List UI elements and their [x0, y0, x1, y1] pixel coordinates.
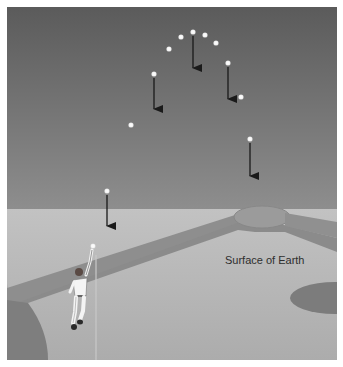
ball-position: [247, 136, 252, 141]
ball-position: [128, 122, 133, 127]
ball-position: [190, 29, 195, 34]
ball-position: [225, 60, 230, 65]
surface-of-earth-label: Surface of Earth: [225, 254, 305, 266]
ball-position: [238, 94, 243, 99]
ball-position: [104, 188, 109, 193]
diagram-canvas: [7, 7, 337, 360]
sky: [7, 7, 337, 210]
projectile-diagram: Surface of Earth: [7, 7, 337, 360]
ball-position: [202, 32, 207, 37]
ball-position: [166, 46, 171, 51]
ball-position: [213, 40, 218, 45]
ball-position: [151, 71, 156, 76]
mound: [234, 206, 290, 228]
ball-position: [178, 34, 183, 39]
ball-position: [90, 243, 95, 248]
